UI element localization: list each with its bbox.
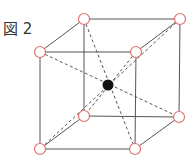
corner-atom xyxy=(175,14,186,25)
corner-atom xyxy=(79,111,90,122)
center-atom xyxy=(103,80,114,91)
corner-atom xyxy=(174,112,185,123)
corner-atom xyxy=(35,47,46,58)
corner-atom xyxy=(35,144,46,155)
bcc-unit-cell-diagram xyxy=(0,0,193,164)
corner-atom xyxy=(131,47,142,58)
corner-atom xyxy=(130,144,141,155)
corner-atom xyxy=(79,14,90,25)
